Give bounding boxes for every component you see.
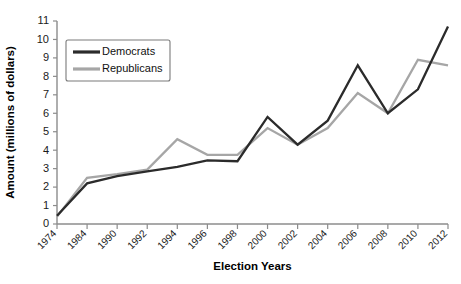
y-axis-tick-label: 0 xyxy=(43,217,49,229)
y-axis-tick-label: 8 xyxy=(43,70,49,82)
x-axis-tick-label: 1990 xyxy=(95,227,119,251)
y-axis-tick-label: 1 xyxy=(43,199,49,211)
x-axis-tick-label: 1992 xyxy=(125,227,149,251)
y-axis-tick-label: 3 xyxy=(43,162,49,174)
y-axis-tick-label: 9 xyxy=(43,51,49,63)
x-axis-tick-label: 1974 xyxy=(35,227,59,251)
y-axis-tick-label: 2 xyxy=(43,180,49,192)
y-axis-tick-label: 7 xyxy=(43,88,49,100)
chart-legend: DemocratsRepublicans xyxy=(66,40,170,81)
x-axis-tick-label: 2002 xyxy=(276,227,300,251)
x-axis-title: Election Years xyxy=(213,260,291,272)
y-axis-tick-label: 4 xyxy=(43,144,49,156)
x-axis-tick-label: 2010 xyxy=(396,227,420,251)
chart-container: 0123456789101119741984199019921994199619… xyxy=(0,0,461,284)
y-axis-tick-label: 6 xyxy=(43,107,49,119)
legend-label-republicans: Republicans xyxy=(102,62,163,74)
x-axis-tick-label: 1984 xyxy=(65,227,89,251)
line-chart: 0123456789101119741984199019921994199619… xyxy=(0,0,461,284)
y-axis-title: Amount (millions of dollars) xyxy=(4,46,16,199)
x-axis-tick-label: 2008 xyxy=(366,227,390,251)
y-axis-tick-label: 10 xyxy=(37,33,49,45)
x-axis-tick-label: 2004 xyxy=(306,227,330,251)
x-axis-tick-label: 1996 xyxy=(185,227,209,251)
legend-label-democrats: Democrats xyxy=(102,45,156,57)
y-axis-tick-label: 11 xyxy=(38,14,49,26)
x-axis-tick-label: 2012 xyxy=(426,227,450,251)
x-axis-tick-label: 1998 xyxy=(215,227,239,251)
x-axis-tick-label: 2006 xyxy=(336,227,360,251)
x-axis-tick-label: 1994 xyxy=(155,227,179,251)
y-axis-tick-label: 5 xyxy=(43,125,49,137)
x-axis-tick-label: 2000 xyxy=(245,227,269,251)
